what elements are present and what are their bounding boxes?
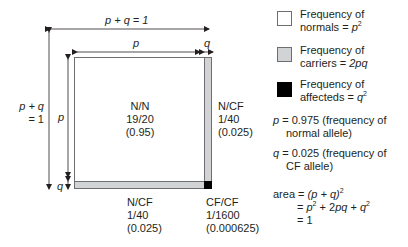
nn-genotype: N/N <box>112 100 168 113</box>
legend-item-carriers: Frequency of carriers = 2pq <box>300 44 368 70</box>
inner-p-height-label: p <box>58 111 64 124</box>
nn-decimal: (0.95) <box>112 126 168 139</box>
outer-height-label: p + q = 1 <box>16 100 44 126</box>
inner-q-height-label: q <box>57 180 63 193</box>
bottom-ncf-genotype: N/CF <box>127 196 162 209</box>
bottom-ncf-decimal: (0.025) <box>127 222 162 235</box>
q-frequency-note: q = 0.025 (frequency of CF allele) <box>273 147 386 173</box>
inner-q-width-label: q <box>204 37 210 50</box>
cfcf-genotype: CF/CF <box>206 196 259 209</box>
right-ncf-fraction: 1/40 <box>218 113 253 126</box>
bottom-ncf-label: N/CF 1/40 (0.025) <box>127 196 162 235</box>
legend-item-normals: Frequency of normals = p2 <box>300 8 364 34</box>
area-equation: area = (p + q)2 = p2 + 2pq + q2 = 1 <box>273 188 370 227</box>
legend-swatch-normal <box>277 11 292 26</box>
bottom-carrier-cell <box>75 182 205 189</box>
cfcf-fraction: 1/1600 <box>206 209 259 222</box>
nn-cell-label: N/N 19/20 (0.95) <box>112 100 168 139</box>
right-ncf-genotype: N/CF <box>218 100 253 113</box>
right-ncf-decimal: (0.025) <box>218 126 253 139</box>
right-ncf-label: N/CF 1/40 (0.025) <box>218 100 253 139</box>
legend-item-affecteds: Frequency of affecteds = q2 <box>300 78 367 104</box>
affected-cell <box>205 182 212 189</box>
cfcf-label: CF/CF 1/1600 (0.000625) <box>206 196 259 235</box>
nn-fraction: 19/20 <box>112 113 168 126</box>
outer-width-label: p + q = 1 <box>105 14 148 27</box>
legend-swatch-carrier <box>277 47 292 62</box>
p-frequency-note: p = 0.975 (frequency of normal allele) <box>273 114 386 140</box>
legend-swatch-affected <box>277 82 292 97</box>
inner-p-width-label: p <box>133 37 139 50</box>
cfcf-decimal: (0.000625) <box>206 222 259 235</box>
right-carrier-cell <box>205 58 212 182</box>
bottom-ncf-fraction: 1/40 <box>127 209 162 222</box>
